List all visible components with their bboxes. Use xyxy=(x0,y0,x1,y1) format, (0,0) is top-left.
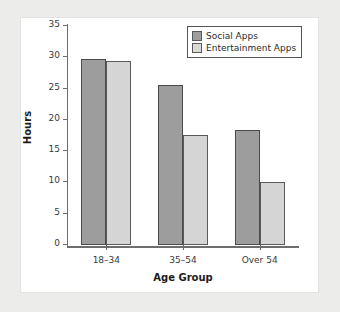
x-axis-tick-mark xyxy=(183,245,184,250)
bar-group-bars xyxy=(145,26,222,245)
bar-group-bars xyxy=(68,26,145,245)
bar-entertainment-apps[interactable] xyxy=(183,135,208,245)
bar-group-bars xyxy=(221,26,298,245)
bar-social-apps[interactable] xyxy=(158,85,183,245)
y-axis-tick-mark xyxy=(63,244,67,245)
x-axis-title: Age Group xyxy=(68,272,298,283)
bar-entertainment-apps[interactable] xyxy=(260,182,285,245)
y-axis-tick-mark xyxy=(63,150,67,151)
legend-item-label: Social Apps xyxy=(206,31,258,41)
bar-social-apps[interactable] xyxy=(81,59,106,245)
x-axis-tick-label: Over 54 xyxy=(242,255,278,265)
chart-figure: 05101520253035 18–3435–54Over 54 Hours A… xyxy=(21,18,318,292)
bar-group: Over 54 xyxy=(221,26,298,245)
bar-social-apps[interactable] xyxy=(235,130,260,245)
y-axis-tick-mark xyxy=(63,119,67,120)
y-axis-tick-label: 35 xyxy=(49,19,60,29)
plot-area: 05101520253035 18–3435–54Over 54 xyxy=(68,26,298,245)
y-axis-title: Hours xyxy=(22,111,33,144)
x-axis-tick-label: 18–34 xyxy=(93,255,120,265)
legend-item[interactable]: Social Apps xyxy=(192,30,296,42)
y-axis-tick-label: 15 xyxy=(49,144,60,154)
bar-entertainment-apps[interactable] xyxy=(106,61,131,245)
y-axis-tick-label: 0 xyxy=(54,238,60,248)
x-axis-tick-label: 35–54 xyxy=(169,255,196,265)
y-axis-tick-label: 20 xyxy=(49,113,60,123)
bar-group: 35–54 xyxy=(145,26,222,245)
legend-swatch-icon xyxy=(192,43,202,53)
y-axis-tick-label: 10 xyxy=(49,175,60,185)
legend-swatch-icon xyxy=(192,31,202,41)
x-axis-tick-mark xyxy=(106,245,107,250)
chart-legend: Social AppsEntertainment Apps xyxy=(187,26,302,58)
y-axis-tick-mark xyxy=(63,25,67,26)
legend-item[interactable]: Entertainment Apps xyxy=(192,42,296,54)
y-axis-tick-label: 5 xyxy=(54,207,60,217)
y-axis-tick-label: 30 xyxy=(49,50,60,60)
y-axis-tick-label: 25 xyxy=(49,82,60,92)
y-axis-tick-mark xyxy=(63,56,67,57)
legend-item-label: Entertainment Apps xyxy=(206,43,296,53)
bar-group: 18–34 xyxy=(68,26,145,245)
y-axis-tick-mark xyxy=(63,213,67,214)
y-axis-tick-mark xyxy=(63,88,67,89)
y-axis-tick-mark xyxy=(63,181,67,182)
x-axis-tick-mark xyxy=(260,245,261,250)
